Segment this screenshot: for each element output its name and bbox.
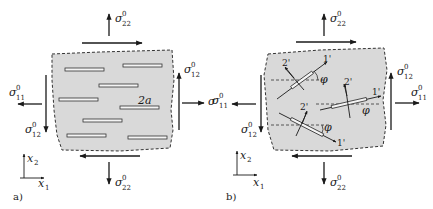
svg-text:1': 1' [337,138,345,148]
label-sigma12-right: σ 0 12 [184,61,200,79]
panel-label-b: b) [226,191,236,202]
svg-text:22: 22 [122,20,131,28]
label-sigma22-bottom: σ 0 22 [330,174,346,192]
svg-text:2': 2' [300,102,308,112]
svg-text:22: 22 [337,20,346,28]
crack [67,134,106,137]
svg-text:φ: φ [324,121,332,134]
svg-text:11: 11 [418,94,427,102]
svg-text:φ: φ [362,104,370,117]
figure: 2a σ 0 22 σ 0 22 σ 0 11 σ 0 12 [0,0,433,209]
svg-text:x: x [38,177,45,190]
svg-text:x: x [27,152,34,165]
svg-text:0: 0 [16,84,20,92]
svg-text:12: 12 [32,131,41,139]
svg-text:x: x [253,176,260,189]
crack-length-label: 2a [137,94,152,107]
svg-text:0: 0 [337,10,341,18]
panel-b: 2' 1' φ 2' 1' φ 2' 1' φ σ [212,10,427,202]
svg-text:φ: φ [320,73,328,86]
label-sigma12-left: σ 0 12 [241,121,257,139]
svg-text:22: 22 [337,184,346,192]
svg-text:22: 22 [122,184,131,192]
crack [128,136,167,139]
crack [99,84,138,87]
svg-text:1: 1 [260,183,264,191]
svg-text:0: 0 [337,174,341,182]
svg-text:0: 0 [219,92,223,100]
svg-text:0: 0 [32,121,36,129]
svg-text:1': 1' [372,87,380,97]
coordinate-axes: x 2 x 1 [233,149,264,191]
svg-text:0: 0 [122,174,126,182]
svg-text:1: 1 [45,184,49,192]
svg-text:12: 12 [248,131,257,139]
svg-text:12: 12 [191,71,200,79]
label-sigma22-bottom: σ 0 22 [115,174,131,192]
crack [83,119,122,122]
svg-text:0: 0 [191,61,195,69]
svg-text:2': 2' [344,77,352,87]
panel-a: 2a σ 0 22 σ 0 22 σ 0 11 σ 0 12 [9,10,216,202]
crack [123,64,162,67]
crack [59,98,98,101]
crack [65,68,104,71]
svg-text:2': 2' [282,58,290,68]
svg-text:2: 2 [34,159,38,167]
svg-text:0: 0 [418,84,422,92]
label-sigma12-right: σ 0 12 [397,63,413,81]
coordinate-axes: x 2 x 1 [20,152,49,192]
svg-text:0: 0 [122,10,126,18]
label-sigma11-left: σ 0 11 [9,84,25,102]
svg-text:x: x [240,149,247,162]
svg-text:11: 11 [219,102,228,110]
svg-text:1': 1' [323,54,331,64]
svg-text:11: 11 [16,94,25,102]
svg-text:0: 0 [248,121,252,129]
label-sigma12-left: σ 0 12 [25,121,41,139]
svg-text:0: 0 [404,63,408,71]
svg-text:12: 12 [404,73,413,81]
panel-label-a: a) [13,191,23,202]
label-sigma22-top: σ 0 22 [330,10,346,28]
label-sigma22-top: σ 0 22 [115,10,131,28]
svg-text:2: 2 [247,156,251,164]
label-sigma11-right: σ 0 11 [411,84,427,102]
